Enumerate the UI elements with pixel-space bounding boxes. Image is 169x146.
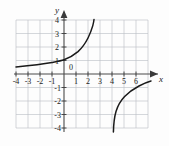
- y-tick-label: 3: [55, 30, 59, 39]
- figure-background: [0, 0, 169, 146]
- x-axis-label: x: [158, 74, 163, 84]
- x-tick-label: 3: [98, 77, 102, 86]
- x-tick-label: 4: [110, 77, 114, 86]
- x-tick-label: 2: [86, 77, 90, 86]
- coordinate-plane: y x 0 -4 -3 -2 -1 1 2 3 4 5 6 4 3 2 1 -1…: [0, 0, 169, 146]
- x-tick-label: 1: [74, 77, 78, 86]
- y-axis-label: y: [54, 5, 59, 15]
- y-tick-label: 2: [55, 43, 59, 52]
- graph-figure: y x 0 -4 -3 -2 -1 1 2 3 4 5 6 4 3 2 1 -1…: [0, 0, 169, 146]
- x-tick-label: 5: [122, 77, 126, 86]
- y-tick-label: -4: [54, 124, 61, 133]
- y-tick-label: -2: [54, 97, 61, 106]
- y-tick-label: 4: [55, 16, 59, 25]
- x-tick-label: 6: [134, 77, 138, 86]
- x-tick-label: -4: [13, 77, 20, 86]
- y-tick-label: -1: [54, 84, 61, 93]
- origin-label: 0: [69, 63, 73, 72]
- y-tick-label: -3: [54, 111, 61, 120]
- y-tick-label: 1: [55, 57, 59, 66]
- x-tick-label: -3: [25, 77, 32, 86]
- x-tick-label: -2: [37, 77, 44, 86]
